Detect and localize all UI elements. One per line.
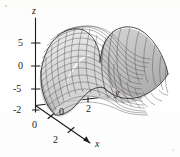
x-axis-label: x xyxy=(95,139,99,149)
z-tick-label-neg2: -2 xyxy=(13,105,21,115)
z-tick-label-0: 0 xyxy=(18,61,23,71)
x-tick-label-2: 2 xyxy=(53,135,58,145)
z-tick-label-neg5: -5 xyxy=(13,84,21,94)
y-tick-label-0: 0 xyxy=(59,107,64,117)
plot-canvas xyxy=(0,0,180,157)
saddle-surface xyxy=(40,26,168,117)
y-tick-label-2: 2 xyxy=(86,104,91,114)
z-tick-label-5: 5 xyxy=(18,38,23,48)
surface-plot-figure: z 5 0 -5 -2 y 0 2 x 0 2 xyxy=(0,0,180,157)
x-tick-label-0: 0 xyxy=(32,120,37,130)
y-axis-label: y xyxy=(115,88,119,98)
x-axis-arrowhead xyxy=(83,136,90,143)
z-axis-label: z xyxy=(32,6,36,16)
